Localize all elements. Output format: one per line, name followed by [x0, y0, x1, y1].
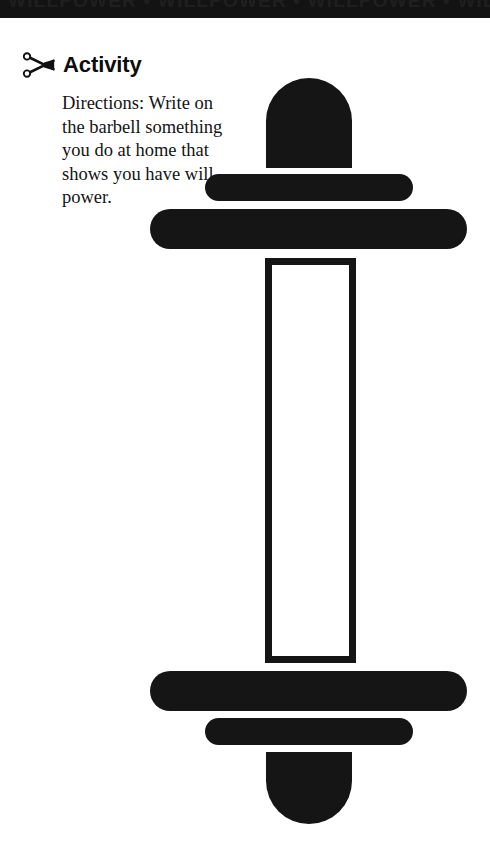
bottom-outer-weight-plate: [150, 671, 467, 711]
top-inner-weight-plate: [205, 174, 413, 201]
scissors-icon: [22, 52, 56, 78]
writing-bar[interactable]: [269, 262, 353, 660]
activity-heading: Activity: [22, 52, 142, 78]
bottom-end-cap: [266, 752, 352, 824]
bottom-inner-weight-plate: [205, 718, 413, 745]
activity-title: Activity: [63, 53, 142, 77]
top-banner-text: WILLPOWER • WILLPOWER • WILLPOWER • WILL: [8, 0, 488, 10]
top-end-cap: [266, 78, 352, 168]
top-outer-weight-plate: [150, 209, 467, 249]
top-banner: WILLPOWER • WILLPOWER • WILLPOWER • WILL: [0, 0, 490, 18]
